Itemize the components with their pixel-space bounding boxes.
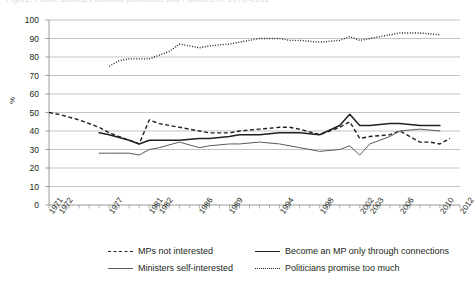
y-axis-tick-label: 40 [13, 127, 39, 135]
y-axis-tick-label: 90 [13, 35, 39, 43]
solid-line-swatch-icon [255, 246, 280, 256]
legend-item-politicians-promise-too-much[interactable]: Politicians promise too much [255, 260, 400, 276]
thin-solid-line-swatch-icon [108, 263, 133, 273]
chart-legend: MPs not interested Become an MP only thr… [0, 243, 474, 282]
series-line-politicians-promise-too-much [109, 33, 440, 66]
legend-item-ministers-self-interested[interactable]: Ministers self-interested [108, 260, 233, 276]
gridlines [49, 20, 460, 187]
y-axis-tick-label: 50 [13, 109, 39, 117]
y-axis-tick-label: 10 [13, 183, 39, 191]
y-axis-tick-label: 100 [13, 16, 39, 24]
dotted-line-swatch-icon [255, 263, 280, 273]
y-axis-tick-label: 60 [13, 90, 39, 98]
y-axis-tick-marks [46, 20, 50, 205]
legend-item-mps-not-interested[interactable]: MPs not interested [108, 243, 213, 259]
series-line-become-an-mp-only-through-connections [99, 114, 440, 144]
y-axis-tick-label: 30 [13, 146, 39, 154]
legend-label: MPs not interested [138, 246, 213, 256]
series-line-mps-not-interested [49, 113, 450, 144]
y-axis-tick-label: 0 [13, 201, 39, 209]
legend-label: Become an MP only through connections [285, 246, 449, 256]
legend-label: Ministers self-interested [138, 263, 233, 273]
y-axis-title: % [8, 90, 17, 112]
legend-row-2: Ministers self-interested Politicians pr… [0, 260, 474, 276]
legend-item-become-an-mp-only-through-connections[interactable]: Become an MP only through connections [255, 243, 449, 259]
legend-row-1: MPs not interested Become an MP only thr… [0, 243, 474, 259]
y-axis-tick-label: 20 [13, 164, 39, 172]
dashed-line-swatch-icon [108, 246, 133, 256]
legend-label: Politicians promise too much [285, 263, 400, 273]
y-axis-tick-label: 80 [13, 53, 39, 61]
y-axis-tick-label: 70 [13, 72, 39, 80]
